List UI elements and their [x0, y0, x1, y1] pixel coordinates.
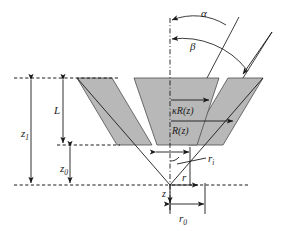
label-r0: r0	[179, 212, 187, 227]
diagram-canvas: z1 L z0 α β	[0, 0, 283, 231]
dimension-r0	[170, 183, 205, 214]
incoming-ray	[243, 32, 272, 74]
label-L: L	[53, 104, 60, 116]
beta-arc	[172, 38, 247, 70]
label-ri: ri	[208, 152, 214, 167]
label-z: z	[161, 188, 166, 199]
label-r: r	[182, 171, 187, 183]
alpha-ray-tick	[207, 17, 239, 78]
label-z1: z1	[20, 127, 29, 142]
ri-leader-line	[177, 158, 206, 164]
incoming-ray-line	[243, 32, 272, 74]
label-R-z: R(z)	[171, 125, 189, 137]
ri-angle-arc	[170, 157, 179, 161]
angle-beta	[172, 32, 272, 78]
figure-container: z1 L z0 α β	[0, 0, 283, 231]
label-kappa-R-z: κR(z)	[172, 105, 194, 117]
angle-alpha	[172, 16, 239, 78]
label-alpha: α	[201, 7, 207, 19]
alpha-arc	[172, 16, 226, 25]
label-z0: z0	[59, 162, 68, 177]
label-beta: β	[189, 40, 196, 52]
